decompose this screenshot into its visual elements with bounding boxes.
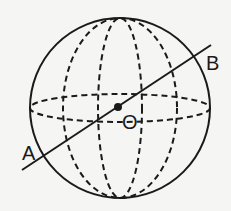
label-a: A (22, 142, 36, 164)
sphere-diagram: A B O (0, 0, 231, 211)
label-o: O (122, 111, 138, 133)
label-b: B (206, 52, 219, 74)
sphere-figure: A B O (0, 0, 231, 211)
center-point-o (114, 103, 122, 111)
